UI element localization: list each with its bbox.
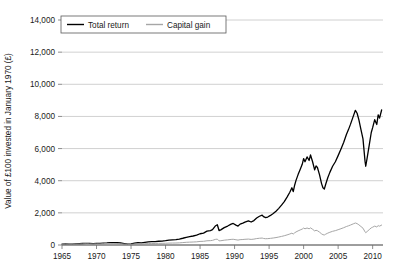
legend-label-total-return: Total return — [88, 21, 129, 30]
y-axis-tick-labels: 02,0004,0006,0008,00010,00012,00014,000 — [30, 16, 55, 250]
series-line-capital-gain — [62, 223, 382, 244]
x-tick-label: 1970 — [87, 252, 106, 261]
y-axis-title: Value of £100 invested in January 1970 (… — [4, 53, 13, 209]
y-tick-label: 6,000 — [35, 145, 56, 154]
x-tick-label: 2010 — [364, 252, 383, 261]
x-axis-tick-marks — [62, 245, 373, 249]
x-tick-label: 1985 — [191, 252, 210, 261]
legend-label-capital-gain: Capital gain — [167, 21, 211, 30]
y-tick-label: 12,000 — [30, 48, 55, 57]
x-axis-tick-labels: 1965197019751980198519901995200020052010 — [53, 252, 382, 261]
gridlines — [58, 20, 383, 245]
y-tick-label: 0 — [50, 241, 55, 250]
y-tick-label: 8,000 — [35, 112, 56, 121]
series-line-total-return — [62, 110, 382, 244]
x-tick-label: 2000 — [295, 252, 314, 261]
data-series-layer — [62, 110, 382, 244]
legend: Total return Capital gain — [61, 16, 226, 33]
y-tick-label: 2,000 — [35, 209, 56, 218]
line-chart: 02,0004,0006,0008,00010,00012,00014,000 … — [0, 0, 393, 278]
y-tick-label: 4,000 — [35, 177, 56, 186]
chart-figure: 02,0004,0006,0008,00010,00012,00014,000 … — [0, 0, 393, 278]
x-tick-label: 1975 — [122, 252, 141, 261]
x-tick-label: 1980 — [156, 252, 175, 261]
y-tick-label: 10,000 — [30, 80, 55, 89]
x-tick-label: 1995 — [260, 252, 279, 261]
x-tick-label: 1965 — [53, 252, 72, 261]
y-tick-label: 14,000 — [30, 16, 55, 25]
x-tick-label: 1990 — [225, 252, 244, 261]
x-tick-label: 2005 — [329, 252, 348, 261]
